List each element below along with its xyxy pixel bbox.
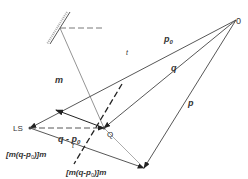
q-vector bbox=[104, 20, 236, 128]
q-minus-p0-label: q - p0 bbox=[58, 134, 81, 145]
p0-label: p0 bbox=[163, 34, 174, 45]
q-label: q bbox=[171, 63, 177, 73]
p-vector bbox=[144, 20, 236, 168]
proj-bottom-label: [m(q-p0)]m bbox=[65, 168, 106, 178]
ls-label: LS bbox=[13, 124, 23, 133]
q-point-label: Q bbox=[107, 130, 113, 139]
p-label: p bbox=[187, 98, 194, 108]
m-label: m bbox=[55, 75, 63, 85]
origin-label: 0 bbox=[236, 16, 241, 26]
q-point bbox=[103, 127, 106, 130]
mirror bbox=[47, 12, 104, 128]
reflection-vector-diagram: 0 LS Q p0 q p m t t q - p0 [m(q-p0)]m [m… bbox=[0, 0, 248, 179]
ls-point bbox=[29, 127, 32, 130]
t-upper-label: t bbox=[126, 49, 129, 56]
vector-lines bbox=[30, 20, 236, 168]
projection-vector bbox=[30, 128, 144, 168]
proj-left-label: [m(q-p0)]m bbox=[5, 150, 46, 160]
